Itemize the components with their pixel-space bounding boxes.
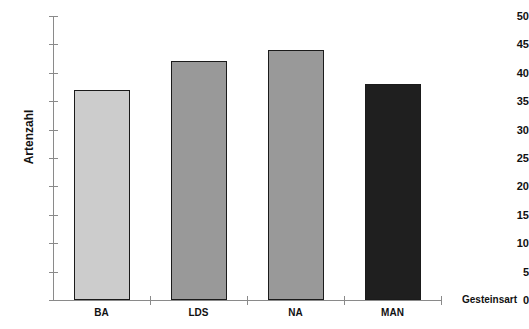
y-axis-title: Artenzahl xyxy=(22,92,36,182)
bar-man xyxy=(365,84,421,300)
x-axis-tick-label: NA xyxy=(247,308,344,318)
y-axis-tick-label: 50 xyxy=(485,11,529,22)
x-axis-tick-label: LDS xyxy=(150,308,247,318)
y-axis-tick xyxy=(49,300,58,301)
x-axis-tick xyxy=(344,296,345,305)
y-axis-tick-label: 30 xyxy=(485,125,529,136)
x-axis-tick xyxy=(247,296,248,305)
x-axis-tick xyxy=(150,296,151,305)
y-axis-tick xyxy=(49,130,58,131)
y-axis-tick xyxy=(49,73,58,74)
y-axis-tick-label: 10 xyxy=(485,238,529,249)
y-axis-tick-label: 25 xyxy=(485,153,529,164)
y-axis-tick xyxy=(49,186,58,187)
y-axis-tick xyxy=(49,101,58,102)
y-axis-tick-label: 45 xyxy=(485,39,529,50)
y-axis-tick-label: 15 xyxy=(485,210,529,221)
bar-ba xyxy=(74,90,130,300)
bar-na xyxy=(268,50,324,300)
y-axis-tick xyxy=(49,243,58,244)
x-axis-tick xyxy=(441,296,442,305)
y-axis-tick-label: 0 xyxy=(485,295,529,306)
y-axis-tick-label: 20 xyxy=(485,181,529,192)
y-axis-tick xyxy=(49,158,58,159)
y-axis-tick-label: 40 xyxy=(485,68,529,79)
x-axis-tick-label: BA xyxy=(53,308,150,318)
bar-chart: Artenzahl Gesteinsart 051015202530354045… xyxy=(0,0,529,329)
y-axis-tick xyxy=(49,272,58,273)
y-axis-tick xyxy=(49,44,58,45)
y-axis-tick-label: 5 xyxy=(485,267,529,278)
bar-lds xyxy=(171,61,227,300)
y-axis-tick xyxy=(49,16,58,17)
y-axis-tick-label: 35 xyxy=(485,96,529,107)
x-axis-tick-label: MAN xyxy=(344,308,441,318)
y-axis-tick xyxy=(49,215,58,216)
